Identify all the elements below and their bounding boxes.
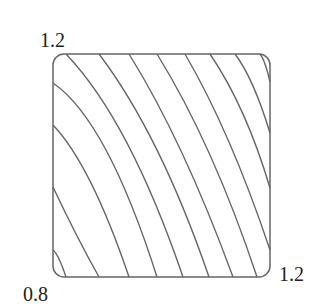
- contour-line: [66, 54, 183, 277]
- contour-line: [99, 54, 209, 277]
- contour-line: [129, 54, 233, 277]
- label-bottom-right: 1.2: [279, 264, 304, 284]
- contour-lines: [53, 54, 270, 277]
- contour-line: [53, 187, 99, 277]
- contour-line: [53, 125, 129, 277]
- contour-line: [157, 54, 257, 277]
- contour-line: [235, 54, 270, 133]
- contour-line: [53, 83, 157, 277]
- label-top-left: 1.2: [40, 30, 65, 50]
- label-bottom-left: 0.8: [23, 284, 48, 304]
- plot-frame: [53, 54, 270, 277]
